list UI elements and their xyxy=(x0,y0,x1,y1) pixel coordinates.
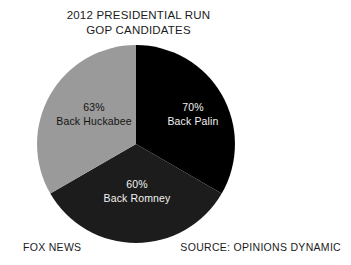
footer-source: SOURCE: OPINIONS DYNAMIC xyxy=(180,241,341,253)
chart-title-line-2: GOP CANDIDATES xyxy=(0,23,277,38)
chart-title: 2012 PRESIDENTIAL RUN GOP CANDIDATES xyxy=(0,8,277,38)
pie-chart xyxy=(37,45,235,243)
pie-svg xyxy=(37,45,235,243)
footer-attribution: FOX NEWS xyxy=(23,241,81,253)
chart-title-line-1: 2012 PRESIDENTIAL RUN xyxy=(0,8,277,23)
pie-chart-graphic: 2012 PRESIDENTIAL RUN GOP CANDIDATES 70%… xyxy=(0,0,351,265)
